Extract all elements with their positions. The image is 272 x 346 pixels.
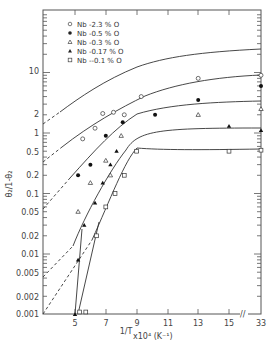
y-tick-0.001: 0.001 xyxy=(16,310,39,319)
legend-item-0: Nb -2.3 % O xyxy=(77,21,120,29)
open-triangle-marker-icon xyxy=(104,158,108,162)
x-tick-5: 5 xyxy=(72,319,77,328)
open-triangle-marker-icon xyxy=(119,134,123,138)
open-triangle-marker-icon xyxy=(196,113,200,117)
curve-1 xyxy=(62,75,261,147)
open-square-marker-icon xyxy=(95,234,99,238)
y-tick-0.002: 0.002 xyxy=(16,293,39,302)
y-tick-labels: 10 2 1 0.5 0.2 0.1 0.05 0.02 0.01 0.005 … xyxy=(16,67,39,319)
legend: Nb -2.3 % O Nb -0.5 % O Nb -0.3 % O Nb -… xyxy=(68,21,124,65)
legend-item-2: Nb -0.3 % O xyxy=(77,39,120,47)
open-square-marker-icon xyxy=(259,148,263,152)
x-axis-title: 1/T x10⁴ (K⁻¹) xyxy=(120,327,173,341)
legend-filled-circle-icon xyxy=(68,31,72,35)
extrapolation-0 xyxy=(43,112,60,124)
open-circle-marker-icon xyxy=(122,113,126,117)
y-tick-0.5: 0.5 xyxy=(26,148,39,157)
open-triangle-marker-icon xyxy=(76,210,80,214)
extrapolation-1 xyxy=(43,147,62,162)
x-axis-fraction: 1/T xyxy=(120,327,133,336)
y-tick-0.02: 0.02 xyxy=(21,232,39,241)
filled-circle-marker-icon xyxy=(104,134,108,138)
y-tick-0.1: 0.1 xyxy=(26,190,39,199)
x-tick-15: 15 xyxy=(224,319,234,328)
open-circle-marker-icon xyxy=(81,137,85,141)
open-square-marker-icon xyxy=(122,173,126,177)
curve-3 xyxy=(73,128,261,246)
y-ticks xyxy=(43,15,261,297)
legend-filled-triangle-icon xyxy=(68,49,72,53)
legend-open-square-icon xyxy=(68,58,72,62)
series-2 xyxy=(76,107,263,214)
series-4 xyxy=(78,148,263,314)
filled-circle-marker-icon xyxy=(76,173,80,177)
x-tick-13: 13 xyxy=(193,319,203,328)
legend-item-4: Nb --0.1 % O xyxy=(77,57,122,65)
y-axis-title: θ₂/1-θ₂ xyxy=(5,171,14,198)
y-tick-1: 1 xyxy=(34,129,39,138)
legend-open-triangle-icon xyxy=(68,40,72,44)
y-tick-0.05: 0.05 xyxy=(21,208,39,217)
open-circle-marker-icon xyxy=(139,95,143,99)
curve-2 xyxy=(70,101,261,178)
open-circle-marker-icon xyxy=(112,110,116,114)
y-tick-0.2: 0.2 xyxy=(26,171,39,180)
open-triangle-marker-icon xyxy=(259,107,263,111)
open-circle-marker-icon xyxy=(101,112,105,116)
open-triangle-marker-icon xyxy=(88,181,92,185)
filled-triangle-marker-icon xyxy=(227,124,231,128)
plot-frame xyxy=(43,10,261,314)
open-square-marker-icon xyxy=(135,149,139,153)
series-3 xyxy=(73,124,263,316)
plot-area xyxy=(43,49,263,316)
axis-break-mark: // xyxy=(240,310,246,319)
x-tick-7: 7 xyxy=(103,319,108,328)
y-tick-0.005: 0.005 xyxy=(16,269,39,278)
open-square-marker-icon xyxy=(113,192,117,196)
filled-circle-marker-icon xyxy=(196,98,200,102)
filled-circle-marker-icon xyxy=(121,120,125,124)
open-circle-marker-icon xyxy=(259,73,263,77)
chart: 10 2 1 0.5 0.2 0.1 0.05 0.02 0.01 0.005 … xyxy=(0,0,272,346)
filled-circle-marker-icon xyxy=(259,84,263,88)
filled-triangle-marker-icon xyxy=(114,149,118,153)
y-tick-2: 2 xyxy=(34,110,39,119)
open-square-marker-icon xyxy=(78,310,82,314)
x-tick-labels: 5 7 9 11 13 15 33 xyxy=(72,319,266,328)
legend-item-3: Nb -0.17 % O xyxy=(77,48,124,56)
open-circle-marker-icon xyxy=(93,126,97,130)
open-square-marker-icon xyxy=(104,205,108,209)
open-square-marker-icon xyxy=(227,149,231,153)
y-tick-10: 10 xyxy=(29,67,39,76)
legend-open-circle-icon xyxy=(68,22,72,26)
filled-circle-marker-icon xyxy=(153,113,157,117)
extrapolation-3 xyxy=(43,246,73,277)
x-tick-33: 33 xyxy=(256,319,266,328)
x-axis-unit: x10⁴ (K⁻¹) xyxy=(133,332,173,341)
filled-triangle-marker-icon xyxy=(259,128,263,132)
filled-circle-marker-icon xyxy=(88,163,92,167)
x-tick-9: 9 xyxy=(134,319,139,328)
legend-item-1: Nb -0.5 % O xyxy=(77,30,120,38)
open-square-marker-icon xyxy=(84,310,88,314)
filled-triangle-marker-icon xyxy=(108,162,112,166)
y-tick-0.01: 0.01 xyxy=(21,250,39,259)
open-circle-marker-icon xyxy=(196,76,200,80)
x-tick-11: 11 xyxy=(163,319,173,328)
